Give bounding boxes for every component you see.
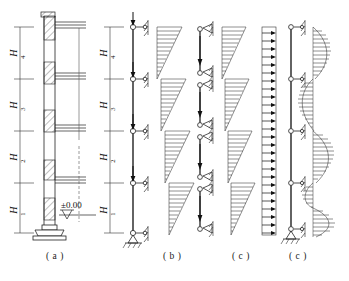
datum-level-marker-a — [59, 210, 96, 219]
figure-bottom-caption — [0, 272, 349, 281]
svg-text:H: H — [8, 101, 19, 110]
svg-text:H: H — [8, 153, 19, 162]
storey-label-b-h1: H 1 — [98, 206, 116, 216]
svg-text:H: H — [98, 101, 109, 110]
panel-caption-b: ( b ) — [163, 251, 181, 261]
column-top-corbel-a — [41, 12, 55, 17]
svg-text:1: 1 — [19, 212, 26, 215]
svg-text:H: H — [8, 206, 19, 215]
svg-text:2: 2 — [109, 159, 116, 162]
svg-text:H: H — [98, 153, 109, 162]
panel-c-segments — [198, 21, 255, 237]
panel-caption-a: ( a ) — [46, 251, 64, 261]
panel-caption-c: ( c ) — [232, 251, 250, 261]
storey-label-a-h1: H 1 — [8, 206, 26, 216]
storey-label-a-h4: H 4 — [8, 49, 26, 59]
wall-hatch-d — [301, 20, 305, 238]
datum-label-a: ±0.00 — [61, 200, 82, 210]
shear-diagram-b — [157, 27, 194, 235]
svg-text:1: 1 — [109, 212, 116, 215]
structural-diagram-figure: H 4 H 3 H 2 H 1 — [0, 0, 349, 281]
storey-label-b-h4: H 4 — [98, 49, 116, 59]
panel-a-elevation: H 4 H 3 H 2 H 1 — [8, 12, 96, 240]
wall-hatch-c — [209, 21, 213, 237]
storey-label-b-h3: H 3 — [98, 101, 116, 111]
storey-label-b-h2: H 2 — [98, 153, 116, 163]
storey-label-a-h3: H 3 — [8, 101, 26, 111]
base-support-b — [123, 235, 142, 248]
svg-text:H: H — [98, 49, 109, 58]
svg-text:3: 3 — [19, 107, 26, 110]
svg-text:3: 3 — [109, 107, 116, 110]
udl-box-d — [262, 27, 276, 235]
shear-diagram-c — [222, 27, 255, 235]
panel-b-model: H 4 H 3 H 2 H 1 — [98, 12, 194, 248]
foundation-footing-a — [33, 225, 66, 240]
base-support-d — [281, 231, 300, 244]
panel-caption-d: ( c ) — [289, 251, 307, 261]
pin-supports-c — [203, 24, 212, 233]
svg-text:H: H — [98, 206, 109, 215]
panel-d-udl-moment — [262, 20, 335, 244]
svg-text:2: 2 — [19, 159, 26, 162]
column-hatched-segments-a — [44, 16, 55, 220]
svg-text:H: H — [8, 49, 19, 58]
storey-label-a-h2: H 2 — [8, 153, 26, 163]
floor-slabs-a — [55, 22, 86, 183]
